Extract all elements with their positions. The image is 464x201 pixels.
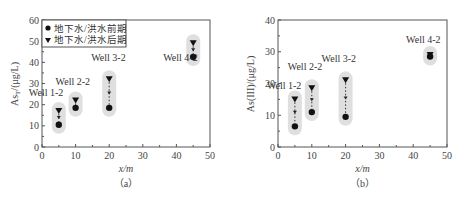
x-tick-label: 10 bbox=[307, 150, 317, 161]
well-label: Well 1-2 bbox=[29, 87, 63, 98]
x-tick-label: 40 bbox=[408, 150, 418, 161]
x-tick-label: 20 bbox=[104, 150, 114, 161]
panel-caption: （b） bbox=[350, 178, 375, 189]
well-label: Well 4-2 bbox=[406, 34, 440, 45]
well-label: Well 2-2 bbox=[56, 76, 90, 87]
y-axis-label: As(III)/(μg/L) bbox=[245, 56, 257, 112]
legend-item-after: 地下水/洪水后期 bbox=[54, 34, 127, 45]
x-tick-label: 50 bbox=[205, 150, 215, 161]
before-flood-marker bbox=[342, 114, 348, 120]
panel-a: 010203040506001020304050Well 1-2Well 2-2… bbox=[9, 15, 215, 190]
y-tick-label: 40 bbox=[265, 15, 275, 26]
before-flood-marker bbox=[292, 123, 298, 129]
y-tick-label: 0 bbox=[270, 142, 275, 153]
well-label: Well 4-2 bbox=[163, 52, 197, 63]
x-tick-label: 50 bbox=[442, 150, 452, 161]
y-tick-label: 0 bbox=[34, 142, 39, 153]
y-tick-label: 20 bbox=[29, 99, 39, 110]
y-axis-label: AsT/(μg/L) bbox=[9, 62, 22, 106]
panel-b: 01020304001020304050Well 1-2Well 2-2Well… bbox=[245, 15, 452, 190]
well-label: Well 3-2 bbox=[322, 53, 356, 64]
before-flood-marker bbox=[106, 105, 112, 111]
y-tick-label: 30 bbox=[265, 46, 275, 57]
y-tick-label: 10 bbox=[29, 120, 39, 131]
x-tick-label: 20 bbox=[341, 150, 351, 161]
well-label: Well 1-2 bbox=[267, 80, 301, 91]
x-tick-label: 0 bbox=[40, 150, 45, 161]
y-tick-label: 10 bbox=[265, 110, 275, 121]
panel-caption: （a） bbox=[114, 178, 138, 189]
y-tick-label: 50 bbox=[29, 36, 39, 47]
legend-circle-icon bbox=[45, 25, 50, 30]
y-tick-label: 40 bbox=[29, 57, 39, 68]
before-flood-marker bbox=[309, 109, 315, 115]
legend: 地下水/洪水前期地下水/洪水后期 bbox=[42, 20, 127, 47]
x-tick-label: 0 bbox=[276, 150, 281, 161]
well-label: Well 3-2 bbox=[91, 52, 125, 63]
x-axis-label: x/m bbox=[118, 163, 133, 174]
x-axis-label: x/m bbox=[354, 163, 369, 174]
chart-figure: 010203040506001020304050Well 1-2Well 2-2… bbox=[0, 0, 464, 201]
before-flood-marker bbox=[72, 105, 78, 111]
y-tick-label: 60 bbox=[29, 15, 39, 26]
well-label: Well 2-2 bbox=[288, 61, 322, 72]
before-flood-marker bbox=[56, 122, 62, 128]
legend-item-before: 地下水/洪水前期 bbox=[54, 23, 127, 34]
x-tick-label: 40 bbox=[171, 150, 181, 161]
x-tick-label: 30 bbox=[374, 150, 384, 161]
x-tick-label: 30 bbox=[138, 150, 148, 161]
x-tick-label: 10 bbox=[71, 150, 81, 161]
